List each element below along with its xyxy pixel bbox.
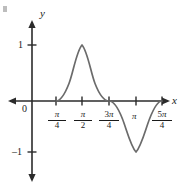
x-tick-label-pi-over-4: π 4 bbox=[48, 110, 66, 131]
x-tick-label-pi-over-2-num: π bbox=[81, 109, 86, 119]
x-tick-label-three-pi-over-4: 3π 4 bbox=[99, 110, 119, 131]
x-tick-label-pi-over-4-num: π bbox=[55, 109, 60, 119]
y-axis-top-arrow bbox=[28, 20, 35, 28]
x-tick-label-three-pi-over-4-num: π bbox=[109, 109, 114, 119]
y-axis-bottom-arrow bbox=[28, 174, 35, 182]
x-tick-label-five-pi-over-4-den: 4 bbox=[152, 121, 172, 130]
x-tick-label-pi-over-4-den: 4 bbox=[48, 121, 66, 130]
y-axis-label: y bbox=[40, 8, 45, 19]
x-axis-left-arrow bbox=[8, 97, 16, 104]
x-axis-right-arrow bbox=[162, 97, 170, 104]
x-tick-label-five-pi-over-4: 5π 4 bbox=[152, 110, 172, 131]
x-tick-label-five-pi-over-4-num: π bbox=[162, 109, 167, 119]
y-tick-label-minus-one: –1 bbox=[12, 147, 22, 157]
x-tick-label-pi: π bbox=[132, 112, 137, 121]
plot-canvas bbox=[0, 0, 186, 192]
y-tick-label-one: 1 bbox=[18, 40, 23, 50]
x-tick-label-pi-over-2-den: 2 bbox=[74, 121, 92, 130]
x-axis-label: x bbox=[172, 95, 177, 106]
origin-label: 0 bbox=[22, 104, 27, 114]
x-tick-label-three-pi-over-4-den: 4 bbox=[99, 121, 119, 130]
x-tick-label-pi-over-2: π 2 bbox=[74, 110, 92, 131]
